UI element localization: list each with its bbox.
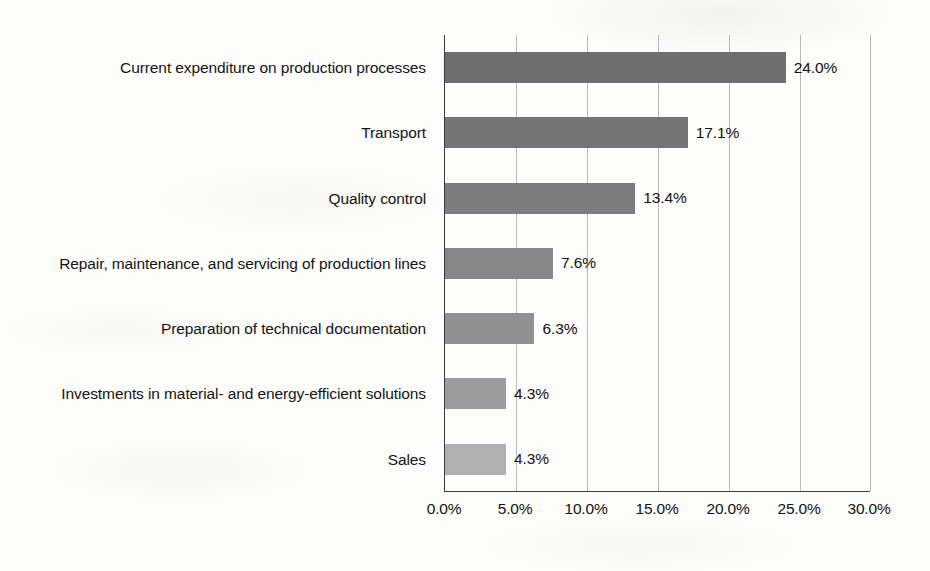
- category-label: Repair, maintenance, and servicing of pr…: [10, 231, 434, 296]
- x-tick-label: 0.0%: [427, 500, 462, 518]
- bar-value-label: 4.3%: [514, 450, 549, 468]
- bar-value-label: 6.3%: [542, 320, 577, 338]
- scanned-page: Current expenditure on production proces…: [0, 0, 930, 571]
- x-axis-tick-labels: 0.0% 5.0% 10.0% 15.0% 20.0% 25.0% 30.0%: [444, 500, 870, 524]
- x-tick-label: 20.0%: [707, 500, 750, 518]
- plot-area: 24.0% 17.1% 13.4% 7.6% 6.3%: [444, 35, 870, 492]
- x-tick-label: 15.0%: [636, 500, 679, 518]
- bar-value-label: 4.3%: [514, 385, 549, 403]
- category-axis-labels: Current expenditure on production proces…: [10, 35, 434, 492]
- x-tick-label: 25.0%: [778, 500, 821, 518]
- bar-row: 4.3%: [445, 427, 870, 492]
- bar-row: 24.0%: [445, 35, 870, 100]
- category-label: Current expenditure on production proces…: [10, 35, 434, 100]
- bar[interactable]: [445, 183, 635, 214]
- bar-row: 13.4%: [445, 166, 870, 231]
- category-label: Quality control: [10, 166, 434, 231]
- category-label: Sales: [10, 427, 434, 492]
- bar-value-label: 7.6%: [561, 254, 596, 272]
- bar-value-label: 13.4%: [643, 189, 686, 207]
- bar[interactable]: [445, 313, 534, 344]
- bar[interactable]: [445, 444, 506, 475]
- bar-value-label: 24.0%: [794, 59, 837, 77]
- bar-row: 7.6%: [445, 231, 870, 296]
- category-label: Preparation of technical documentation: [10, 296, 434, 361]
- x-tick-label: 10.0%: [565, 500, 608, 518]
- bar-chart: Current expenditure on production proces…: [0, 0, 930, 571]
- bar[interactable]: [445, 117, 688, 148]
- bar-value-label: 17.1%: [696, 124, 739, 142]
- gridline: [870, 35, 871, 491]
- bar[interactable]: [445, 248, 553, 279]
- category-label: Investments in material- and energy-effi…: [10, 361, 434, 426]
- bar[interactable]: [445, 378, 506, 409]
- x-tick-label: 5.0%: [498, 500, 533, 518]
- x-tick-label: 30.0%: [848, 500, 891, 518]
- bar-rows: 24.0% 17.1% 13.4% 7.6% 6.3%: [445, 35, 870, 491]
- bar-row: 6.3%: [445, 296, 870, 361]
- category-label: Transport: [10, 100, 434, 165]
- bar[interactable]: [445, 52, 786, 83]
- bar-row: 4.3%: [445, 361, 870, 426]
- bar-row: 17.1%: [445, 100, 870, 165]
